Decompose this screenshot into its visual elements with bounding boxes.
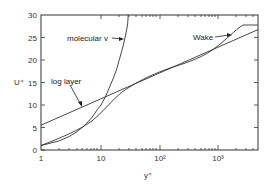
y-tick-30: 30 bbox=[28, 11, 37, 20]
x-tick-100: 10² bbox=[154, 154, 166, 163]
y-tick-25: 25 bbox=[28, 34, 37, 43]
molecular-label: molecular v bbox=[67, 34, 108, 43]
wake-arrow bbox=[215, 35, 229, 37]
x-tick-1000: 10³ bbox=[212, 154, 224, 163]
y-tick-10: 10 bbox=[28, 101, 37, 110]
y-tick-0: 0 bbox=[33, 146, 38, 155]
x-tick-10: 10 bbox=[97, 154, 106, 163]
log-layer-arrowhead bbox=[78, 101, 82, 107]
y-tick-15: 15 bbox=[28, 79, 37, 88]
x-axis-label: y⁺ bbox=[144, 171, 152, 180]
molecular-arrowhead bbox=[119, 37, 124, 41]
y-axis-ticks bbox=[41, 38, 258, 151]
y-tick-5: 5 bbox=[33, 124, 38, 133]
wake-label: Wake bbox=[193, 33, 214, 42]
log-layer-label: log layer bbox=[51, 77, 82, 86]
x-tick-1: 1 bbox=[39, 154, 44, 163]
chart: 0 5 10 15 20 25 30 1 10 10² 10³ y⁺ U⁺ mo… bbox=[0, 0, 272, 187]
y-axis-label: U⁺ bbox=[14, 78, 24, 87]
y-tick-20: 20 bbox=[28, 56, 37, 65]
